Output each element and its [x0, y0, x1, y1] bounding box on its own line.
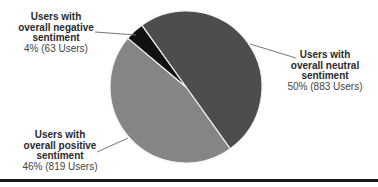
label-neutral-line1: Users with	[277, 50, 373, 61]
label-negative: Users with overall negative sentiment 4%…	[8, 12, 104, 54]
label-neutral: Users with overall neutral sentiment 50%…	[277, 50, 373, 92]
label-positive-line3: sentiment	[12, 151, 108, 162]
label-neutral-value: 50% (883 Users)	[277, 82, 373, 93]
label-negative-line1: Users with	[8, 12, 104, 23]
label-negative-line3: sentiment	[8, 33, 104, 44]
label-positive-value: 46% (819 Users)	[12, 162, 108, 173]
bottom-divider	[0, 179, 378, 182]
label-positive-line1: Users with	[12, 130, 108, 141]
label-positive: Users with overall positive sentiment 46…	[12, 130, 108, 172]
label-negative-value: 4% (63 Users)	[8, 44, 104, 55]
label-neutral-line3: sentiment	[277, 71, 373, 82]
